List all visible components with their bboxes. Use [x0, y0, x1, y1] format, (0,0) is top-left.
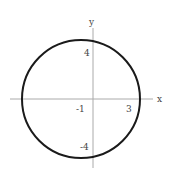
x-tick-label: 3: [126, 104, 132, 114]
x-tick-label: -1: [76, 104, 85, 114]
x-axis-label: x: [157, 94, 162, 104]
y-tick-label: -4: [80, 142, 89, 152]
y-tick-label: 4: [84, 48, 90, 58]
circle-plot: x y -1 3 4 -4: [0, 0, 175, 177]
y-axis-label: y: [88, 17, 95, 27]
